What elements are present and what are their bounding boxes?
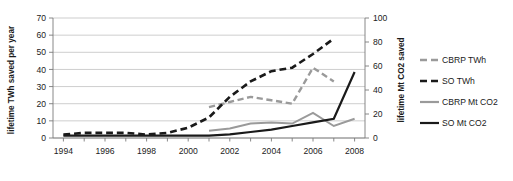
secondary-y-tick-label: 100 [373, 13, 388, 23]
chart-container: 19941996199820002002200420062008 0102030… [0, 0, 513, 181]
y-axis-tick-labels: 010203040506070 [36, 13, 46, 143]
x-tick-label: 1996 [95, 146, 114, 156]
x-tick-label: 1998 [137, 146, 156, 156]
y-tick-label: 50 [36, 47, 46, 57]
legend-label-1: CBRP TWh [442, 55, 486, 65]
x-tick-label: 2006 [303, 146, 322, 156]
secondary-y-tick-label: 20 [373, 109, 383, 119]
legend-label-2: SO TWh [442, 76, 475, 86]
y-tick-label: 0 [41, 133, 46, 143]
secondary-y-tick-label: 0 [373, 133, 378, 143]
gridlines [53, 18, 365, 138]
x-tick-label: 2000 [179, 146, 198, 156]
axes [53, 18, 365, 138]
axis-ticks [49, 18, 369, 142]
y-axis-title: lifetime TWh saved per year [7, 25, 16, 134]
y-tick-label: 70 [36, 13, 46, 23]
x-tick-label: 1994 [54, 146, 73, 156]
y-tick-label: 30 [36, 82, 46, 92]
x-tick-label: 2008 [345, 146, 364, 156]
y-tick-label: 20 [36, 99, 46, 109]
secondary-y-axis-tick-labels: 020406080100 [373, 13, 388, 143]
legend-label-4: SO Mt CO2 [442, 118, 487, 128]
legend-label-3: CBRP Mt CO2 [442, 97, 498, 107]
series-line-cbrp-twh [209, 68, 334, 107]
x-tick-label: 2004 [262, 146, 281, 156]
line-chart: 19941996199820002002200420062008 0102030… [0, 0, 513, 181]
secondary-y-tick-label: 40 [373, 85, 383, 95]
y-tick-label: 10 [36, 116, 46, 126]
secondary-y-tick-label: 60 [373, 61, 383, 71]
chart-legend: CBRP TWhSO TWhCBRP Mt CO2SO Mt CO2 [420, 55, 498, 128]
secondary-y-tick-label: 80 [373, 37, 383, 47]
x-tick-label: 2002 [220, 146, 239, 156]
secondary-y-axis-title: lifetime Mt CO2 saved [397, 37, 406, 122]
y-tick-label: 40 [36, 65, 46, 75]
x-axis-tick-labels: 19941996199820002002200420062008 [54, 146, 365, 156]
y-tick-label: 60 [36, 30, 46, 40]
